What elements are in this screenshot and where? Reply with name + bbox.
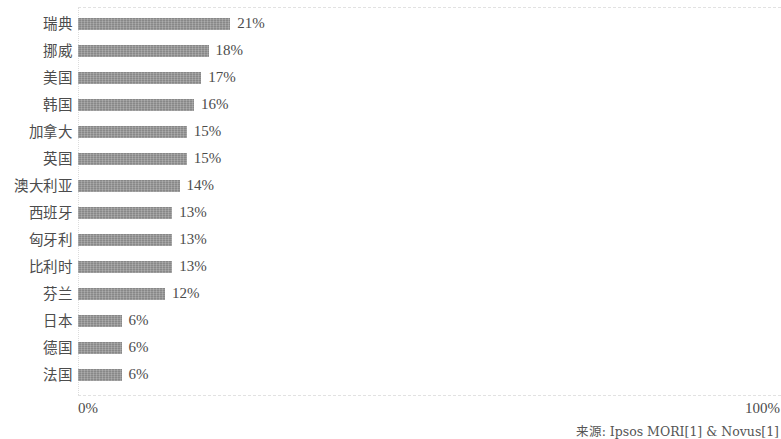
bar-track: 13% <box>78 253 781 280</box>
bar <box>78 126 187 138</box>
category-label: 西班牙 <box>0 205 72 221</box>
bar-value-label: 18% <box>216 42 244 59</box>
bar <box>78 153 187 165</box>
bar-chart: 瑞典21%挪威18%美国17%韩国16%加拿大15%英国15%澳大利亚14%西班… <box>0 0 781 439</box>
bar-track: 15% <box>78 145 781 172</box>
category-label: 挪威 <box>0 43 72 59</box>
bar-value-label: 15% <box>194 150 222 167</box>
bar <box>78 180 180 192</box>
category-label: 英国 <box>0 151 72 167</box>
bar-row-list: 瑞典21%挪威18%美国17%韩国16%加拿大15%英国15%澳大利亚14%西班… <box>0 10 781 388</box>
bar-track: 14% <box>78 172 781 199</box>
category-label: 法国 <box>0 367 72 383</box>
bar-track: 17% <box>78 64 781 91</box>
bar-track: 12% <box>78 280 781 307</box>
source-note: 来源: Ipsos MORI[1] & Novus[1] <box>576 421 779 439</box>
bar-value-label: 17% <box>208 69 236 86</box>
bar-track: 13% <box>78 199 781 226</box>
bar-value-label: 13% <box>179 258 207 275</box>
bar-value-label: 12% <box>172 285 200 302</box>
bar-value-label: 21% <box>237 15 265 32</box>
bar-row: 西班牙13% <box>0 199 781 226</box>
bar-value-label: 6% <box>129 312 149 329</box>
category-label: 芬兰 <box>0 286 72 302</box>
bar-row: 芬兰12% <box>0 280 781 307</box>
bar <box>78 261 172 273</box>
bar-row: 瑞典21% <box>0 10 781 37</box>
category-label: 美国 <box>0 70 72 86</box>
bar-track: 6% <box>78 307 781 334</box>
bar-row: 挪威18% <box>0 37 781 64</box>
gridline-top <box>78 7 781 8</box>
bar <box>78 18 230 30</box>
bar <box>78 342 122 354</box>
bar <box>78 288 165 300</box>
bar-value-label: 13% <box>179 204 207 221</box>
bar-value-label: 13% <box>179 231 207 248</box>
bar <box>78 315 122 327</box>
bar-row: 德国6% <box>0 334 781 361</box>
bar-row: 澳大利亚14% <box>0 172 781 199</box>
category-label: 日本 <box>0 313 72 329</box>
bar-row: 法国6% <box>0 361 781 388</box>
gridline-bottom <box>78 395 781 396</box>
bar-row: 比利时13% <box>0 253 781 280</box>
plot-area: 瑞典21%挪威18%美国17%韩国16%加拿大15%英国15%澳大利亚14%西班… <box>0 6 781 396</box>
category-label: 澳大利亚 <box>0 178 72 194</box>
bar <box>78 369 122 381</box>
bar <box>78 207 172 219</box>
bar-row: 加拿大15% <box>0 118 781 145</box>
bar-track: 21% <box>78 10 781 37</box>
bar-row: 匈牙利13% <box>0 226 781 253</box>
category-label: 加拿大 <box>0 124 72 140</box>
bar <box>78 45 209 57</box>
bar-value-label: 16% <box>201 96 229 113</box>
bar-row: 美国17% <box>0 64 781 91</box>
bar-track: 6% <box>78 361 781 388</box>
bar-track: 15% <box>78 118 781 145</box>
x-axis-ticks: 0% 100% <box>0 400 781 420</box>
bar-track: 18% <box>78 37 781 64</box>
bar-value-label: 15% <box>194 123 222 140</box>
bar-track: 16% <box>78 91 781 118</box>
bar-track: 6% <box>78 334 781 361</box>
x-axis-tick-max: 100% <box>745 400 780 417</box>
bar <box>78 72 201 84</box>
category-label: 比利时 <box>0 259 72 275</box>
bar <box>78 234 172 246</box>
category-label: 韩国 <box>0 97 72 113</box>
bar-value-label: 6% <box>129 339 149 356</box>
category-label: 德国 <box>0 340 72 356</box>
category-label: 匈牙利 <box>0 232 72 248</box>
bar-value-label: 14% <box>187 177 215 194</box>
bar-track: 13% <box>78 226 781 253</box>
bar-row: 日本6% <box>0 307 781 334</box>
bar-row: 英国15% <box>0 145 781 172</box>
bar-value-label: 6% <box>129 366 149 383</box>
x-axis-tick-min: 0% <box>78 400 98 417</box>
bar-row: 韩国16% <box>0 91 781 118</box>
category-label: 瑞典 <box>0 16 72 32</box>
bar <box>78 99 194 111</box>
